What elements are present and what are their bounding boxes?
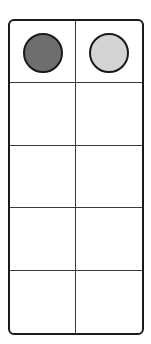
frame-cell	[10, 21, 76, 83]
frame-cell	[76, 146, 142, 208]
frame-cell	[10, 146, 76, 208]
frame-cell	[76, 208, 142, 270]
dark-counter	[23, 33, 63, 73]
ten-frame-grid	[10, 21, 142, 333]
frame-cell	[76, 271, 142, 333]
light-counter	[89, 33, 129, 73]
ten-frame	[8, 19, 144, 335]
frame-cell	[10, 83, 76, 145]
frame-cell	[76, 21, 142, 83]
frame-cell	[76, 83, 142, 145]
frame-cell	[10, 271, 76, 333]
frame-cell	[10, 208, 76, 270]
